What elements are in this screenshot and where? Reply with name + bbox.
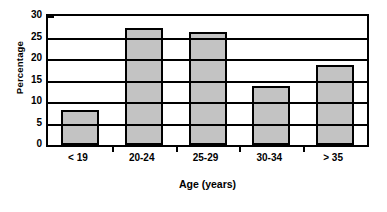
- gridline: [48, 59, 367, 61]
- x-tick-mark: [303, 145, 305, 152]
- y-tick-label: 30: [14, 9, 42, 20]
- bar: [252, 86, 290, 145]
- plot-area: [46, 14, 369, 147]
- x-tick-label: 20-24: [110, 152, 174, 163]
- gridline: [48, 102, 367, 104]
- y-tick-mark: [48, 38, 54, 40]
- x-tick-mark: [112, 145, 114, 152]
- y-tick-label: 15: [14, 73, 42, 84]
- x-tick-mark: [239, 145, 241, 152]
- x-tick-mark: [176, 145, 178, 152]
- y-tick-label: 20: [14, 52, 42, 63]
- x-axis-tick-labels: < 1920-2425-2930-34> 35: [46, 152, 369, 168]
- y-tick-mark: [48, 59, 54, 61]
- bar: [189, 32, 227, 145]
- y-tick-mark: [48, 124, 54, 126]
- gridline: [48, 81, 367, 83]
- y-tick-label: 0: [14, 138, 42, 149]
- x-tick-label: > 35: [301, 152, 365, 163]
- gridline: [48, 124, 367, 126]
- y-tick-mark: [48, 16, 54, 18]
- gridline: [48, 38, 367, 40]
- y-tick-mark: [48, 81, 54, 83]
- bar-chart: Percentage 051015202530 < 1920-2425-2930…: [0, 0, 387, 212]
- y-tick-label: 25: [14, 30, 42, 41]
- x-tick-label: 30-34: [237, 152, 301, 163]
- bar: [61, 110, 99, 145]
- y-tick-label: 10: [14, 95, 42, 106]
- bar: [125, 28, 163, 145]
- y-axis-tick-labels: 051015202530: [14, 8, 42, 149]
- bar: [316, 65, 354, 145]
- y-tick-label: 5: [14, 116, 42, 127]
- y-tick-mark: [48, 102, 54, 104]
- y-tick-mark: [48, 145, 54, 147]
- x-tick-label: < 19: [46, 152, 110, 163]
- x-tick-label: 25-29: [174, 152, 238, 163]
- x-axis-title: Age (years): [46, 178, 369, 190]
